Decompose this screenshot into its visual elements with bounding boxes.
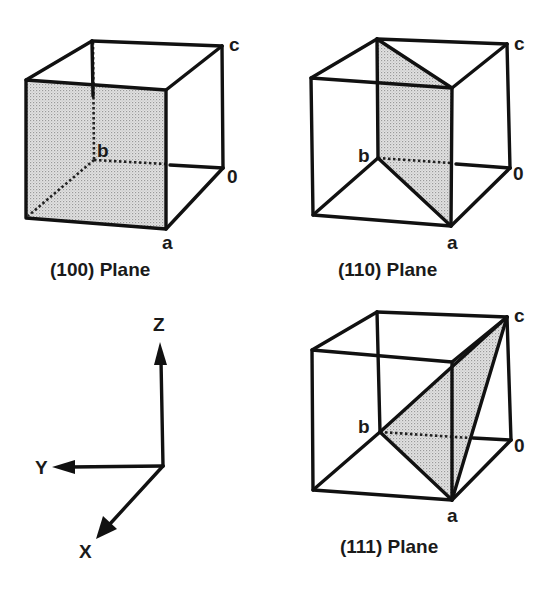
y-arrowhead-icon	[52, 460, 75, 474]
vertex-label-c: c	[514, 33, 525, 54]
panel-100-plane: b c 0 a (100) Plane	[26, 34, 240, 280]
vertex-label-b: b	[358, 416, 370, 437]
vertex-label-origin: 0	[227, 166, 238, 187]
z-arrowhead-icon	[154, 342, 167, 365]
caption-100-plane: (100) Plane	[50, 259, 150, 280]
caption-110-plane: (110) Plane	[338, 259, 437, 280]
z-axis-label: Z	[153, 314, 165, 335]
panel-110-plane: b c 0 a (110) Plane	[311, 33, 525, 280]
vertex-label-a: a	[447, 232, 458, 253]
vertex-label-b: b	[358, 145, 370, 166]
vertex-label-c: c	[229, 34, 240, 55]
y-axis	[70, 466, 163, 467]
shaded-plane-100	[26, 80, 166, 229]
x-axis-label: X	[79, 541, 92, 562]
panel-111-plane: b c 0 a (111) Plane	[312, 305, 525, 557]
coordinate-axes: Z Y X	[35, 314, 167, 562]
crystal-planes-diagram: b c 0 a (100) Plane b c 0 a (110) Plane	[0, 0, 553, 594]
z-axis	[161, 360, 163, 466]
shaded-plane-111	[380, 317, 507, 500]
shaded-plane-110	[377, 39, 452, 226]
vertex-label-origin: 0	[514, 435, 525, 456]
vertex-label-b: b	[97, 140, 109, 161]
vertex-label-origin: 0	[513, 163, 524, 184]
vertex-label-c: c	[514, 305, 525, 326]
caption-111-plane: (111) Plane	[340, 536, 438, 557]
y-axis-label: Y	[35, 457, 48, 478]
vertex-label-a: a	[162, 232, 173, 253]
x-axis	[109, 466, 163, 525]
vertex-label-a: a	[447, 505, 458, 526]
